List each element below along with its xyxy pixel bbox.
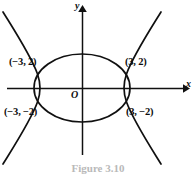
x-axis-label: x	[186, 79, 191, 89]
figure-container: (−3, 2) (3, 2) (−3, −2) (3, −2) y x O Fi…	[0, 0, 196, 174]
y-axis	[78, 5, 87, 155]
origin-label: O	[71, 90, 78, 100]
coordinate-plane-graphic	[0, 0, 196, 174]
point-label-neg3-2: (−3, 2)	[9, 57, 36, 68]
point-label-3-2: (3, 2)	[125, 57, 147, 68]
point-label-3-neg2: (3, −2)	[126, 107, 153, 118]
y-axis-label: y	[75, 1, 79, 11]
y-axis-arrowhead	[78, 5, 87, 12]
figure-caption: Figure 3.10	[0, 163, 196, 174]
point-label-neg3-neg2: (−3, −2)	[4, 107, 37, 118]
